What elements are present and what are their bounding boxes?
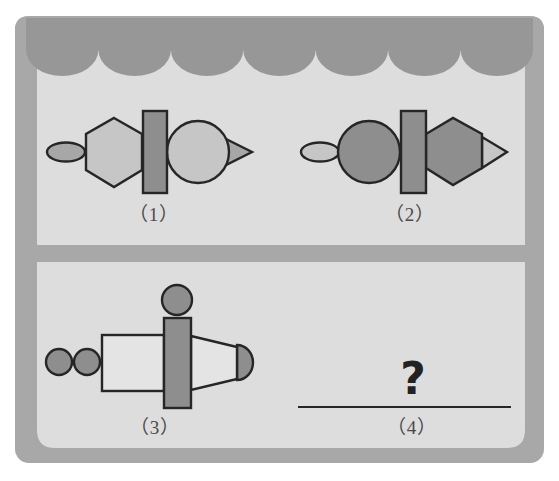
figure-3-tall-rectangle bbox=[164, 318, 191, 408]
figure-1-circle bbox=[167, 121, 229, 183]
figure-2-label: （2） bbox=[385, 199, 436, 226]
figure-1-label: （1） bbox=[129, 199, 180, 226]
figure-1-ellipse bbox=[47, 143, 85, 162]
figure-3-body-rectangle bbox=[102, 335, 164, 391]
figure-1-rectangle bbox=[143, 111, 167, 193]
figure-3-small-circle-right bbox=[74, 349, 100, 375]
puzzle-graphic bbox=[0, 0, 559, 481]
figure-3-small-circle-left bbox=[46, 349, 72, 375]
figure-3-top-circle bbox=[162, 285, 192, 315]
puzzle-card: （1） （2） （3） （4） ? bbox=[0, 0, 559, 481]
figure-2-circle bbox=[338, 121, 400, 183]
figure-3-label: （3） bbox=[130, 412, 181, 439]
figure-4-label: （4） bbox=[387, 412, 438, 439]
panel-divider bbox=[37, 245, 525, 262]
question-mark: ? bbox=[400, 357, 426, 401]
figure-2-rectangle bbox=[401, 111, 426, 193]
figure-2-ellipse bbox=[301, 143, 339, 162]
